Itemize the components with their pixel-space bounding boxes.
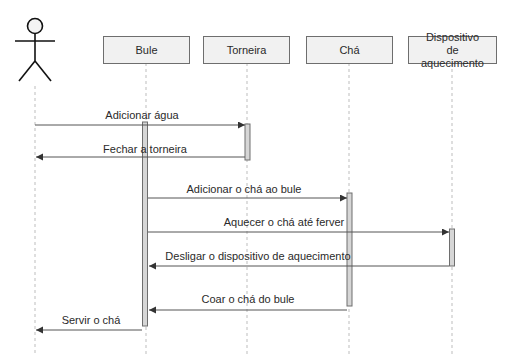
participant-label: Chá [339,44,359,57]
message-label-servir: Servir o chá [62,314,121,326]
lifelines [35,63,452,355]
sequence-diagram: Bule Torneira Chá Dispositivo de aquecim… [0,0,511,363]
message-label-desligar: Desligar o dispositivo de aquecimento [165,250,350,262]
message-label-adicionar-cha: Adicionar o chá ao bule [187,183,302,195]
participant-bule: Bule [103,36,190,64]
participant-cha: Chá [306,36,393,64]
activation-dispositivo [450,229,455,266]
participant-label: Torneira [227,44,267,57]
participant-dispositivo: Dispositivo de aquecimento [408,36,497,64]
message-label-aquecer: Aquecer o chá até ferver [224,216,344,228]
actor-stick-figure-icon [15,19,55,82]
participant-label: Dispositivo de aquecimento [419,31,486,70]
message-label-fechar-torneira: Fechar a torneira [103,143,187,155]
message-label-adicionar-agua: Adicionar água [105,109,178,121]
message-label-coar: Coar o chá do bule [202,293,295,305]
participant-label: Bule [135,44,157,57]
activation-torneira [245,124,250,160]
participant-torneira: Torneira [203,36,290,64]
